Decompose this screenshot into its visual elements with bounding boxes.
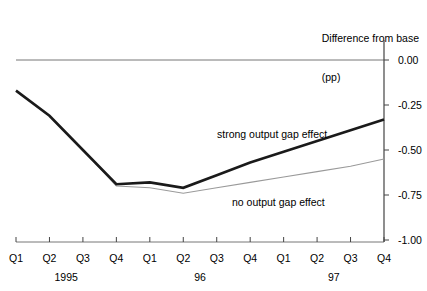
y-axis-ticks bbox=[384, 60, 389, 240]
x-axis-tick-label: Q3 bbox=[76, 252, 90, 264]
x-axis-tick-label: Q3 bbox=[210, 252, 224, 264]
x-axis-year-label: 1995 bbox=[54, 271, 77, 283]
chart-container: Difference from base (pp) 0.00-0.25-0.50… bbox=[0, 0, 427, 291]
plot-area bbox=[0, 0, 427, 291]
series-label-strong-output-gap-effect: strong output gap effect bbox=[217, 128, 327, 140]
x-axis-tick-label: Q2 bbox=[42, 252, 56, 264]
x-axis-ticks bbox=[16, 237, 384, 242]
y-axis-tick-label: -0.75 bbox=[398, 189, 422, 201]
x-axis-tick-label: Q1 bbox=[143, 252, 157, 264]
x-axis-tick-label: Q1 bbox=[9, 252, 23, 264]
x-axis-tick-label: Q4 bbox=[377, 252, 391, 264]
series-line bbox=[16, 91, 384, 194]
y-axis-tick-label: 0.00 bbox=[398, 54, 418, 66]
x-axis-year-label: 97 bbox=[328, 271, 340, 283]
x-axis-tick-label: Q2 bbox=[310, 252, 324, 264]
x-axis-year-label: 96 bbox=[194, 271, 206, 283]
series-line bbox=[16, 91, 384, 188]
x-axis-tick-label: Q4 bbox=[243, 252, 257, 264]
x-axis-tick-label: Q2 bbox=[176, 252, 190, 264]
x-axis-tick-label: Q1 bbox=[277, 252, 291, 264]
series-lines bbox=[16, 91, 384, 194]
y-axis-tick-label: -1.00 bbox=[398, 234, 422, 246]
series-label-no-output-gap-effect: no output gap effect bbox=[232, 196, 325, 208]
y-axis-tick-label: -0.50 bbox=[398, 144, 422, 156]
x-axis-tick-label: Q3 bbox=[344, 252, 358, 264]
x-axis-tick-label: Q4 bbox=[109, 252, 123, 264]
y-axis-tick-label: -0.25 bbox=[398, 99, 422, 111]
